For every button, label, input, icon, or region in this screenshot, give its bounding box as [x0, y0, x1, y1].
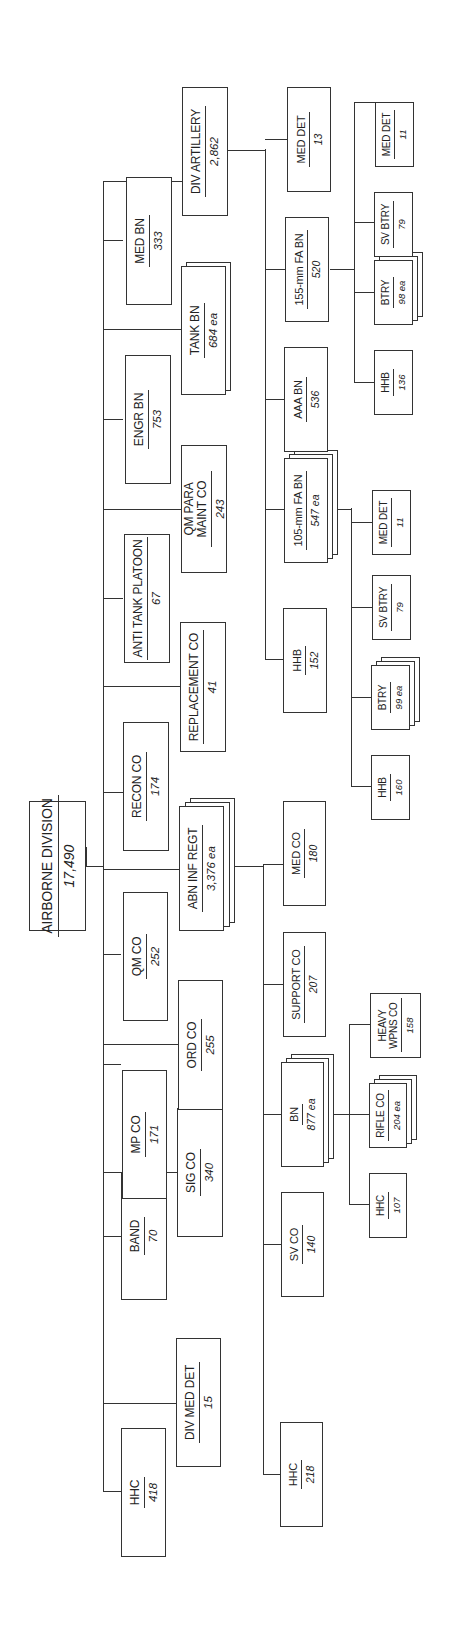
- connector: [330, 269, 354, 270]
- org-chart: AIRBORNE DIVISION 17,490 HHC 418 BAND 70…: [0, 0, 459, 1648]
- connector: [265, 659, 283, 660]
- unit-name: SUPPORT CO: [290, 946, 305, 1022]
- connector: [86, 847, 87, 867]
- unit-name: MED BN: [134, 215, 150, 266]
- unit-name: DIV MED DET: [184, 1362, 200, 1443]
- unit-strength: 3,376 ea: [203, 846, 217, 891]
- connector: [351, 508, 352, 787]
- unit-strength: 41: [204, 681, 218, 694]
- unit-engr-bn: ENGR BN 753: [125, 355, 171, 484]
- unit-strength: 98 ea: [394, 281, 407, 305]
- unit-strength: 79: [394, 219, 407, 230]
- unit-name: HEAVY WPNS CO: [377, 999, 402, 1053]
- unit-name: REPLACEMENT CO: [188, 630, 204, 744]
- unit-arty-med-det: MED DET 13: [287, 87, 331, 192]
- unit-arty-155-fa-bn: 155-mm FA BN 520: [285, 217, 329, 322]
- root-airborne-division: AIRBORNE DIVISION 17,490: [29, 801, 86, 931]
- connector: [235, 866, 263, 867]
- unit-strength: 753: [149, 410, 163, 429]
- connector: [349, 1114, 369, 1115]
- connector: [349, 1024, 370, 1025]
- connector: [103, 954, 121, 955]
- unit-name: 105-mm FA BN: [292, 471, 307, 549]
- connector: [351, 786, 371, 787]
- unit-name: ENGR BN: [133, 390, 149, 449]
- unit-name: MP CO: [130, 1112, 146, 1156]
- unit-155-sv-btry: SV BTRY 79: [374, 192, 413, 257]
- unit-155-hhb: HHB 136: [374, 350, 413, 415]
- unit-name: MED CO: [290, 829, 305, 878]
- unit-strength: 180: [305, 845, 319, 863]
- unit-strength: 255: [202, 1035, 216, 1054]
- unit-strength: 70: [145, 1230, 159, 1243]
- connector: [265, 149, 266, 660]
- connector: [349, 1204, 369, 1205]
- connector: [103, 1064, 121, 1065]
- unit-name: BN: [288, 1104, 303, 1125]
- unit-strength: 877 ea: [303, 1098, 317, 1130]
- connector: [263, 864, 283, 865]
- connector: [265, 399, 284, 400]
- unit-name: MED DET: [295, 112, 310, 166]
- unit-105-sv-btry: SV BTRY 79: [372, 575, 411, 640]
- unit-name: MED DET: [381, 110, 395, 160]
- unit-name: HHB: [380, 369, 394, 396]
- connector: [103, 792, 123, 793]
- unit-strength: 67: [148, 592, 162, 605]
- connector: [103, 1491, 121, 1492]
- unit-mp-co: MP CO 171: [122, 1070, 167, 1199]
- unit-strength: 79: [392, 602, 405, 613]
- unit-strength: 152: [306, 652, 320, 670]
- unit-strength: 17,490: [59, 845, 77, 888]
- unit-name: SIG CO: [185, 1149, 201, 1196]
- unit-name: HHC: [375, 1192, 389, 1219]
- unit-arty-hhb: HHB 152: [283, 608, 327, 713]
- connector: [265, 509, 284, 510]
- unit-name: AAA BN: [292, 377, 307, 422]
- unit-name: ANTI TANK PLATOON: [132, 537, 148, 661]
- unit-name: BAND: [129, 1217, 145, 1256]
- unit-regt-bn: BN 877 ea: [281, 1062, 324, 1167]
- unit-strength: 140: [303, 1236, 317, 1254]
- unit-name: HHB: [291, 646, 306, 675]
- connector: [354, 382, 374, 383]
- unit-bn-rifle-co: RIFLE CO 204 ea: [369, 1083, 407, 1148]
- connector: [354, 102, 375, 103]
- connector: [263, 984, 283, 985]
- unit-strength: 340: [201, 1163, 215, 1182]
- connector: [265, 139, 287, 140]
- unit-qm-para-maint-co: QM PARA MAINT CO 243: [181, 445, 227, 573]
- unit-155-btry: BTRY 98 ea: [374, 260, 413, 325]
- connector: [103, 240, 123, 241]
- unit-name: QM CO: [131, 934, 147, 980]
- connector: [263, 1244, 281, 1245]
- connector: [103, 686, 180, 687]
- unit-name: HHC: [287, 1460, 302, 1489]
- unit-sig-co: SIG CO 340: [177, 1108, 223, 1237]
- unit-105-hhb: HHB 160: [371, 755, 410, 820]
- unit-strength: 252: [147, 947, 161, 966]
- unit-qm-co: QM CO 252: [123, 892, 168, 1021]
- unit-abn-inf-regt: ABN INF REGT 3,376 ea: [179, 806, 224, 931]
- unit-div-artillery: DIV ARTILLERY 2,862: [182, 87, 228, 216]
- unit-name: 155-mm FA BN: [293, 230, 308, 308]
- unit-regt-hq-company: HHC 218: [280, 1422, 323, 1527]
- unit-strength: 520: [308, 261, 322, 279]
- connector: [351, 522, 372, 523]
- unit-recon-co: RECON CO 174: [123, 722, 169, 851]
- unit-name: ORD CO: [186, 1019, 202, 1072]
- unit-regt-support-co: SUPPORT CO 207: [283, 932, 326, 1037]
- unit-105-med-det: MED DET 11: [372, 490, 411, 555]
- unit-med-bn: MED BN 333: [126, 177, 172, 305]
- unit-ord-co: ORD CO 255: [178, 980, 223, 1110]
- unit-155-med-det: MED DET 11: [375, 102, 414, 167]
- unit-strength: 13: [310, 134, 324, 146]
- connector: [263, 1114, 281, 1115]
- unit-tank-bn: TANK BN 684 ea: [181, 266, 226, 395]
- unit-regt-sv-co: SV CO 140: [281, 1192, 324, 1297]
- unit-name: MED DET: [378, 498, 392, 548]
- connector: [354, 102, 355, 383]
- unit-name: HHC: [129, 1477, 145, 1508]
- unit-strength: 684 ea: [205, 313, 219, 348]
- unit-strength: 207: [305, 976, 319, 994]
